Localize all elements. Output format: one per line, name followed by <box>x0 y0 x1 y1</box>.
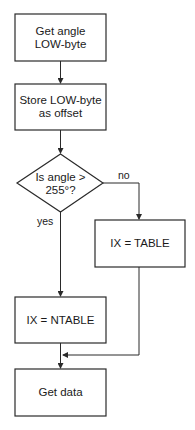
node-decision-line1: Is angle > <box>35 171 85 183</box>
node-decision: Is angle > 255°? <box>17 154 103 212</box>
label-no: no <box>118 169 130 181</box>
edge-decision-no <box>103 183 139 219</box>
node-get-angle: Get angle LOW-byte <box>15 14 106 61</box>
node-ix-table-label: IX = TABLE <box>110 237 170 249</box>
flowchart: Get angle LOW-byte Store LOW-byte as off… <box>0 0 195 430</box>
node-decision-line2: 255°? <box>45 184 75 196</box>
node-get-data-label: Get data <box>38 386 83 398</box>
label-yes: yes <box>37 215 53 227</box>
node-get-angle-line1: Get angle <box>36 25 86 37</box>
node-store-offset: Store LOW-byte as offset <box>15 84 106 130</box>
node-ix-table: IX = TABLE <box>95 220 185 267</box>
node-get-angle-line2: LOW-byte <box>35 38 87 50</box>
node-store-offset-line1: Store LOW-byte <box>19 94 101 106</box>
node-ix-ntable-label: IX = NTABLE <box>27 314 95 326</box>
node-get-data: Get data <box>15 369 106 416</box>
node-ix-ntable: IX = NTABLE <box>15 297 106 343</box>
node-store-offset-line2: as offset <box>39 107 83 119</box>
